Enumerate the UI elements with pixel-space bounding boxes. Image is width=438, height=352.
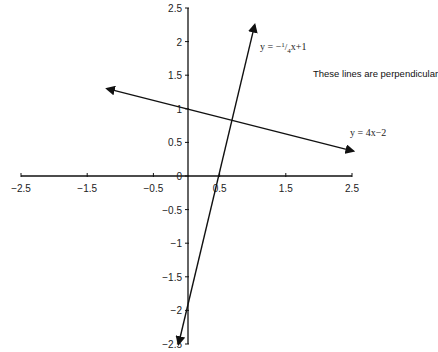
- line-series-1: [179, 25, 255, 344]
- y-tick-label: −1: [171, 238, 183, 249]
- equation-label-right: y = 4x−2: [350, 127, 386, 138]
- x-tick-label: −1.5: [77, 183, 97, 194]
- line-series-2: [107, 89, 353, 151]
- equation-label-top: y = −1/4x+1: [260, 41, 306, 55]
- y-tick-label: −2: [171, 305, 183, 316]
- x-tick-label: −0.5: [144, 183, 164, 194]
- y-tick-label: 2.5: [168, 3, 182, 14]
- x-tick-label: 1.5: [279, 183, 293, 194]
- y-tick-label: 0: [176, 171, 182, 182]
- x-tick-label: 2.5: [345, 183, 359, 194]
- y-tick-label: −0.5: [162, 205, 182, 216]
- y-tick-label: 1: [176, 104, 182, 115]
- y-tick-label: 0.5: [168, 137, 182, 148]
- coordinate-plane-chart: −2.5−1.5−0.50.51.52.5 2.521.510.50−0.5−1…: [0, 0, 438, 352]
- x-tick-label: −2.5: [11, 183, 31, 194]
- y-tick-label: −1.5: [162, 272, 182, 283]
- perpendicular-note: These lines are perpendicular: [313, 68, 438, 79]
- y-tick-label: 1.5: [168, 70, 182, 81]
- y-tick-label: 2: [176, 37, 182, 48]
